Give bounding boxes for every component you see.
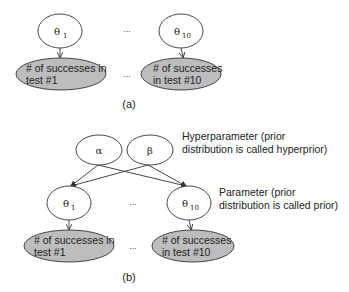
node-theta-1: θ 1 [47, 186, 91, 220]
caption-b: (b) [122, 271, 135, 283]
node-obs-10: # of successes in test #10 [141, 58, 222, 90]
edge-alpha-theta1 [71, 165, 98, 186]
hyperparameter-note-line1: Hyperparameter (prior [182, 130, 286, 142]
caption-a: (a) [122, 98, 135, 110]
edge-theta10-obs10 [181, 48, 183, 57]
ellipsis-params: ... [123, 24, 131, 34]
theta-subscript: 10 [182, 32, 191, 40]
theta-subscript: 1 [71, 204, 75, 212]
bayesian-network-diagram: θ 1 ... θ 10 # of successes in test #1 .… [0, 0, 349, 292]
edge-beta-theta10 [148, 165, 186, 186]
node-alpha: α [76, 135, 122, 165]
obs-label-line1: # of successes [162, 234, 231, 246]
theta-symbol: θ [182, 198, 188, 209]
panel-b: α β Hyperparameter (prior distribution i… [24, 130, 338, 283]
ellipsis-obs: ... [123, 69, 131, 79]
theta-symbol: θ [54, 26, 60, 37]
obs-label-line1: # of successes in [34, 234, 115, 246]
ellipsis-params: ... [129, 197, 137, 207]
parameter-note-line2: distribution is called prior) [219, 199, 338, 211]
obs-label-line1: # of successes [153, 62, 222, 74]
obs-label-line2: test #1 [26, 74, 58, 86]
hyperparameter-note-line2: distribution is called hyperprior) [182, 143, 327, 155]
node-obs-1: # of successes in test #1 [16, 58, 107, 90]
parameter-note-line1: Parameter (prior [219, 186, 296, 198]
ellipsis-obs: ... [129, 241, 137, 251]
obs-label-line2: test #1 [34, 246, 66, 258]
theta-subscript: 1 [63, 32, 67, 40]
beta-symbol: β [147, 145, 153, 156]
node-theta-1: θ 1 [38, 14, 82, 48]
node-beta: β [127, 135, 173, 165]
obs-label-line1: # of successes in [26, 62, 107, 74]
theta-symbol: θ [174, 26, 180, 37]
node-obs-10: # of successes in test #10 [152, 230, 234, 262]
alpha-symbol: α [96, 145, 103, 156]
obs-label-line2: in test #10 [162, 246, 211, 258]
panel-a: θ 1 ... θ 10 # of successes in test #1 .… [16, 14, 222, 110]
svg-text:θ: θ [54, 26, 60, 37]
edge-theta10-obs10 [189, 220, 191, 229]
node-theta-10: θ 10 [167, 186, 211, 220]
theta-subscript: 10 [190, 204, 199, 212]
theta-symbol: θ [63, 198, 69, 209]
node-obs-1: # of successes in test #1 [24, 230, 115, 262]
node-theta-10: θ 10 [159, 14, 203, 48]
obs-label-line2: in test #10 [153, 74, 202, 86]
